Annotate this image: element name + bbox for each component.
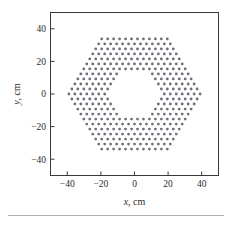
scatter-point bbox=[76, 108, 79, 111]
scatter-point bbox=[91, 83, 94, 86]
scatter-point bbox=[70, 98, 73, 101]
scatter-point bbox=[148, 128, 151, 131]
scatter-point bbox=[151, 113, 154, 116]
scatter-point bbox=[172, 58, 175, 61]
scatter-point bbox=[97, 123, 100, 126]
scatter-point bbox=[148, 48, 151, 51]
scatter-point bbox=[139, 123, 142, 126]
scatter-point bbox=[154, 68, 157, 71]
scatter-point bbox=[88, 108, 91, 111]
y-axis-label: y, cm bbox=[11, 83, 22, 106]
scatter-point bbox=[112, 118, 115, 121]
x-tick-label: −20 bbox=[93, 179, 108, 189]
scatter-point bbox=[127, 63, 130, 66]
scatter-point bbox=[175, 73, 178, 76]
scatter-point bbox=[136, 128, 139, 131]
scatter-point bbox=[163, 103, 166, 106]
scatter-point bbox=[97, 103, 100, 106]
scatter-point bbox=[100, 98, 103, 101]
scatter-point bbox=[82, 108, 85, 111]
scatter-point bbox=[85, 93, 88, 96]
x-axis-ticks bbox=[67, 172, 201, 176]
scatter-point bbox=[175, 123, 178, 126]
scatter-point bbox=[142, 37, 145, 40]
scatter-point bbox=[115, 143, 118, 146]
scatter-point bbox=[118, 118, 121, 121]
scatter-point bbox=[178, 58, 181, 61]
scatter-point bbox=[142, 48, 145, 51]
scatter-point bbox=[91, 133, 94, 136]
scatter-point bbox=[100, 48, 103, 51]
scatter-point bbox=[160, 88, 163, 91]
scatter-point bbox=[142, 118, 145, 121]
scatter-point bbox=[127, 143, 130, 146]
scatter-point bbox=[106, 68, 109, 71]
scatter-point bbox=[172, 78, 175, 81]
scatter-point bbox=[112, 48, 115, 51]
scatter-point bbox=[169, 83, 172, 86]
scatter-point bbox=[160, 108, 163, 111]
scatter-point bbox=[130, 128, 133, 131]
scatter-point bbox=[172, 98, 175, 101]
scatter-point bbox=[148, 58, 151, 61]
scatter-point bbox=[136, 58, 139, 61]
scatter-point bbox=[109, 73, 112, 76]
scatter-point bbox=[157, 113, 160, 116]
scatter-point bbox=[196, 88, 199, 91]
scatter-point bbox=[106, 98, 109, 101]
scatter-point bbox=[163, 93, 166, 96]
scatter-point bbox=[118, 138, 121, 141]
scatter-point bbox=[163, 113, 166, 116]
scatter-point bbox=[79, 113, 82, 116]
scatter-point bbox=[118, 148, 121, 151]
scatter-point bbox=[166, 128, 169, 131]
scatter-point bbox=[154, 108, 157, 111]
scatter-point bbox=[103, 42, 106, 45]
scatter-point bbox=[109, 133, 112, 136]
scatter-point bbox=[85, 83, 88, 86]
scatter-point bbox=[88, 128, 91, 131]
scatter-point bbox=[193, 93, 196, 96]
scatter-point bbox=[85, 73, 88, 76]
scatter-point bbox=[184, 118, 187, 121]
scatter-point bbox=[184, 108, 187, 111]
scatter-point bbox=[88, 68, 91, 71]
scatter-point bbox=[175, 133, 178, 136]
scatter-point bbox=[103, 73, 106, 76]
scatter-point bbox=[190, 78, 193, 81]
scatter-point bbox=[160, 148, 163, 151]
scatter-point bbox=[112, 138, 115, 141]
scatter-point bbox=[157, 73, 160, 76]
scatter-point bbox=[82, 118, 85, 121]
scatter-point bbox=[97, 42, 100, 45]
scatter-point bbox=[103, 103, 106, 106]
scatter-point bbox=[103, 123, 106, 126]
scatter-point bbox=[163, 83, 166, 86]
scatter-point bbox=[190, 98, 193, 101]
scatter-point bbox=[112, 58, 115, 61]
scatter-point bbox=[166, 108, 169, 111]
scatter-point bbox=[100, 138, 103, 141]
scatter-point bbox=[115, 123, 118, 126]
scatter-point bbox=[115, 42, 118, 45]
scatter-point bbox=[124, 138, 127, 141]
scatter-point bbox=[181, 103, 184, 106]
scatter-point bbox=[106, 118, 109, 121]
scatter-point bbox=[97, 133, 100, 136]
scatter-point bbox=[106, 58, 109, 61]
scatter-point bbox=[166, 148, 169, 151]
scatter-point bbox=[115, 73, 118, 76]
scatter-point bbox=[145, 143, 148, 146]
scatter-point bbox=[82, 88, 85, 91]
scatter-point bbox=[73, 103, 76, 106]
scatter-point bbox=[112, 78, 115, 81]
scatter-point bbox=[154, 138, 157, 141]
scatter-point bbox=[175, 63, 178, 66]
scatter-point bbox=[172, 88, 175, 91]
scatter-point bbox=[184, 68, 187, 71]
scatter-point bbox=[103, 93, 106, 96]
scatter-point bbox=[154, 37, 157, 40]
scatter-point bbox=[139, 63, 142, 66]
scatter-point bbox=[178, 118, 181, 121]
scatter-point bbox=[79, 83, 82, 86]
